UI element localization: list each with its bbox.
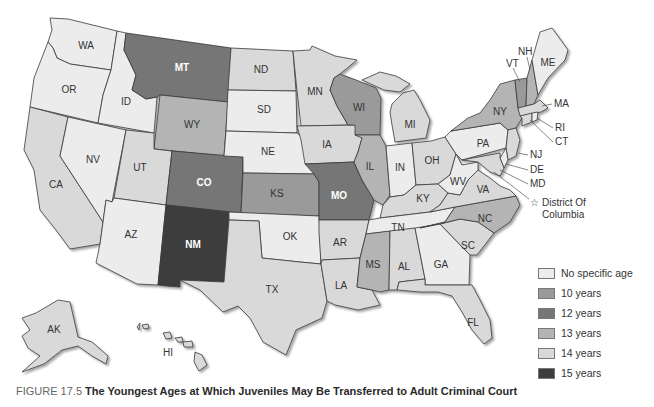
label-sc: SC	[461, 240, 475, 251]
label-ok: OK	[283, 231, 298, 242]
figure-number: FIGURE 17.5	[16, 385, 82, 397]
label-or: OR	[62, 84, 77, 95]
label-ne: NE	[261, 146, 275, 157]
label-az: AZ	[125, 229, 138, 240]
legend-swatch	[538, 328, 555, 339]
label-wv: WV	[450, 176, 466, 187]
figure-title: The Youngest Ages at Which Juveniles May…	[85, 385, 517, 397]
legend-item-none: No specific age	[538, 263, 654, 283]
label-nc: NC	[478, 213, 492, 224]
label-va: VA	[477, 184, 490, 195]
label-ut: UT	[133, 162, 146, 173]
state-ak	[22, 300, 108, 372]
legend-swatch	[538, 368, 555, 379]
label-mt: MT	[175, 62, 189, 73]
label-ca: CA	[49, 179, 63, 190]
callout-ri: RI	[555, 122, 565, 133]
label-id: ID	[121, 96, 131, 107]
legend-label: 14 years	[561, 347, 601, 359]
label-wy: WY	[184, 119, 200, 130]
label-tn: TN	[391, 222, 404, 233]
legend-item-10: 10 years	[538, 283, 654, 303]
label-wi: WI	[353, 102, 365, 113]
label-co: CO	[197, 177, 212, 188]
state-ny	[451, 80, 522, 131]
legend-label: 10 years	[561, 287, 601, 299]
label-ky: KY	[416, 193, 430, 204]
legend: No specific age 10 years 12 years 13 yea…	[538, 263, 654, 383]
legend-item-13: 13 years	[538, 323, 654, 343]
legend-swatch	[538, 268, 555, 279]
callout-vt: VT	[506, 58, 519, 69]
legend-label: 13 years	[561, 327, 601, 339]
state-fl	[397, 279, 492, 344]
label-wa: WA	[78, 40, 94, 51]
callout-ct: CT	[555, 136, 568, 147]
state-az	[96, 198, 166, 285]
state-ri	[532, 112, 538, 122]
figure-caption: FIGURE 17.5 The Youngest Ages at Which J…	[16, 385, 517, 397]
callout-ma: MA	[554, 98, 569, 109]
label-fl: FL	[467, 317, 479, 328]
label-ks: KS	[270, 188, 284, 199]
callout-de: DE	[530, 164, 544, 175]
legend-item-12: 12 years	[538, 303, 654, 323]
legend-label: No specific age	[561, 267, 633, 279]
label-ga: GA	[434, 259, 449, 270]
label-la: LA	[335, 280, 348, 291]
label-il: IL	[366, 161, 375, 172]
star-icon: ☆	[530, 197, 539, 208]
label-mi: MI	[404, 119, 415, 130]
label-me: ME	[541, 57, 556, 68]
label-nm: NM	[185, 239, 201, 250]
label-mn: MN	[307, 86, 323, 97]
legend-item-14: 14 years	[538, 343, 654, 363]
label-pa: PA	[477, 138, 490, 149]
label-ms: MS	[366, 259, 381, 270]
legend-item-15: 15 years	[538, 363, 654, 383]
label-tx: TX	[266, 284, 279, 295]
label-ar: AR	[333, 237, 347, 248]
label-ny: NY	[493, 106, 507, 117]
callout-dc-line2: Columbia	[542, 209, 585, 220]
callout-nh: NH	[518, 46, 532, 57]
label-oh: OH	[425, 155, 440, 166]
label-nd: ND	[254, 64, 268, 75]
legend-swatch	[538, 288, 555, 299]
label-al: AL	[398, 261, 411, 272]
label-nv: NV	[86, 154, 100, 165]
legend-swatch	[538, 308, 555, 319]
state-nj	[506, 128, 520, 160]
label-sd: SD	[257, 104, 271, 115]
legend-swatch	[538, 348, 555, 359]
label-ak: AK	[47, 324, 61, 335]
legend-label: 12 years	[561, 307, 601, 319]
label-hi: HI	[163, 347, 173, 358]
label-in: IN	[395, 162, 405, 173]
callout-md: MD	[530, 178, 546, 189]
label-ia: IA	[322, 139, 332, 150]
label-mo: MO	[331, 190, 347, 201]
callout-dc-line1: District Of	[542, 197, 586, 208]
legend-label: 15 years	[561, 367, 601, 379]
callout-nj: NJ	[530, 149, 542, 160]
